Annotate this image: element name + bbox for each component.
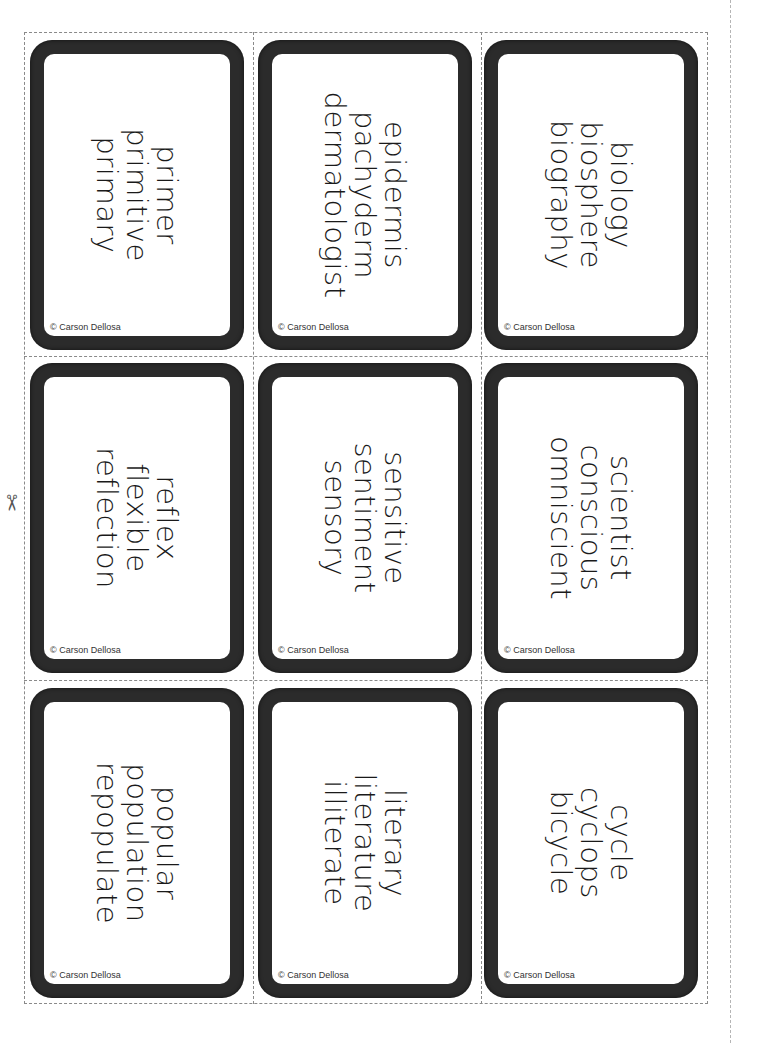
copyright-label: © Carson Dellosa [278, 322, 349, 332]
card-face: biology biosphere biography © Carson Del… [498, 54, 684, 336]
word: cycle [606, 787, 636, 899]
card-face: epidermis pachyderm dermatologist © Cars… [272, 54, 458, 336]
word-card: scientist conscious omniscient © Carson … [484, 363, 698, 673]
word-card: reflex flexible reflection © Carson Dell… [30, 363, 244, 673]
card-face: cycle cyclops bicycle © Carson Dellosa [498, 702, 684, 984]
word: reflex [152, 447, 182, 589]
word-card: primer primitive primary © Carson Dellos… [30, 40, 244, 350]
word: bicycle [546, 787, 576, 899]
word-list: reflex flexible reflection [92, 447, 182, 589]
word-list: primer primitive primary [92, 128, 182, 262]
word: sentiment [350, 442, 380, 593]
word: literary [380, 774, 410, 913]
word-list: sensitive sentiment sensory [320, 442, 410, 593]
word: illiterate [320, 774, 350, 913]
word: cyclops [576, 787, 606, 899]
word-card: biology biosphere biography © Carson Del… [484, 40, 698, 350]
word: omniscient [546, 436, 576, 600]
word-card: sensitive sentiment sensory © Carson Del… [258, 363, 472, 673]
word: epidermis [380, 91, 410, 298]
copyright-label: © Carson Dellosa [50, 645, 121, 655]
word: dermatologist [320, 91, 350, 298]
word: popular [152, 762, 182, 924]
word-list: cycle cyclops bicycle [546, 787, 636, 899]
copyright-label: © Carson Dellosa [278, 970, 349, 980]
word: literature [350, 774, 380, 913]
card-face: sensitive sentiment sensory © Carson Del… [272, 377, 458, 659]
word: scientist [606, 436, 636, 600]
word: conscious [576, 436, 606, 600]
word: biology [606, 120, 636, 270]
card-face: reflex flexible reflection © Carson Dell… [44, 377, 230, 659]
word-list: biology biosphere biography [546, 120, 636, 270]
word-card: epidermis pachyderm dermatologist © Cars… [258, 40, 472, 350]
word-card: cycle cyclops bicycle © Carson Dellosa [484, 688, 698, 998]
cut-line-vertical-2 [481, 32, 482, 1004]
word: reflection [92, 447, 122, 589]
word-list: literary literature illiterate [320, 774, 410, 913]
cut-line-horizontal-2 [24, 680, 708, 681]
word-card: popular population repopulate © Carson D… [30, 688, 244, 998]
card-face: primer primitive primary © Carson Dellos… [44, 54, 230, 336]
cut-line-vertical-1 [253, 32, 254, 1004]
word-list: popular population repopulate [92, 762, 182, 924]
word: flexible [122, 447, 152, 589]
page-edge-cut-line [730, 0, 731, 1043]
word: biography [546, 120, 576, 270]
copyright-label: © Carson Dellosa [50, 322, 121, 332]
copyright-label: © Carson Dellosa [50, 970, 121, 980]
card-face: popular population repopulate © Carson D… [44, 702, 230, 984]
word: sensitive [380, 442, 410, 593]
cut-line-horizontal-1 [24, 356, 708, 357]
scissors-icon: ✂ [0, 494, 22, 512]
copyright-label: © Carson Dellosa [504, 322, 575, 332]
card-face: scientist conscious omniscient © Carson … [498, 377, 684, 659]
word: primary [92, 128, 122, 262]
word: population [122, 762, 152, 924]
card-face: literary literature illiterate © Carson … [272, 702, 458, 984]
copyright-label: © Carson Dellosa [278, 645, 349, 655]
copyright-label: © Carson Dellosa [504, 970, 575, 980]
word-card: literary literature illiterate © Carson … [258, 688, 472, 998]
word: primer [152, 128, 182, 262]
word-list: epidermis pachyderm dermatologist [320, 91, 410, 298]
word: repopulate [92, 762, 122, 924]
word: pachyderm [350, 91, 380, 298]
copyright-label: © Carson Dellosa [504, 645, 575, 655]
word: biosphere [576, 120, 606, 270]
word: primitive [122, 128, 152, 262]
word-list: scientist conscious omniscient [546, 436, 636, 600]
word: sensory [320, 442, 350, 593]
